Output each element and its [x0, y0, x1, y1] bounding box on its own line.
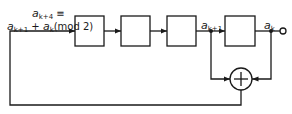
tap-label-ak1: ak+1 [201, 16, 222, 32]
recurrence-label-line2: ak+1 + ak(mod 2) [7, 17, 93, 33]
feedback-wire [10, 31, 241, 105]
register-stage-2 [121, 16, 150, 46]
tap-wire-ak1 [211, 31, 230, 79]
register-stage-4 [225, 16, 255, 46]
register-stage-3 [167, 16, 196, 46]
output-terminal [280, 28, 286, 34]
output-label-ak: ak [264, 16, 275, 32]
